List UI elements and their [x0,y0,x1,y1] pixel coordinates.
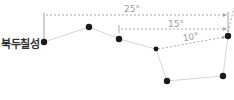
star-4 [154,47,159,52]
angle-label-10: 10° [182,31,199,44]
star-5 [164,78,170,84]
star-3 [116,36,122,42]
star-2 [86,24,92,30]
extension-line [228,8,234,32]
big-dipper-diagram: 25° 15° 10° [0,0,234,100]
star-1 [41,39,47,45]
angle-label-15: 15° [168,19,184,29]
constellation-lines [44,27,228,81]
star-7 [225,33,231,39]
star-6 [220,73,226,79]
stars [41,24,231,84]
angle-label-25: 25° [124,4,140,14]
